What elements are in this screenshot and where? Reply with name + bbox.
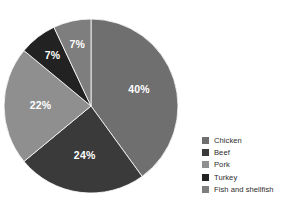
chart-legend: ChickenBeefPorkTurkeyFish and shellfish <box>202 134 282 196</box>
pie-slice-label: 24% <box>74 149 96 161</box>
legend-swatch-icon <box>202 137 209 144</box>
pie-slice-label: 7% <box>45 49 61 61</box>
legend-item[interactable]: Fish and shellfish <box>202 184 282 196</box>
legend-item[interactable]: Turkey <box>202 171 282 183</box>
pie-chart-svg: 40%24%22%7%7% <box>4 11 178 201</box>
legend-swatch-icon <box>202 161 209 168</box>
legend-swatch-icon <box>202 174 209 181</box>
pie-slice-label: 22% <box>30 99 52 111</box>
legend-item[interactable]: Chicken <box>202 134 282 146</box>
legend-item-label: Beef <box>214 148 230 157</box>
legend-item[interactable]: Beef <box>202 146 282 158</box>
legend-item-label: Fish and shellfish <box>214 185 274 194</box>
legend-item[interactable]: Pork <box>202 159 282 171</box>
legend-item-label: Chicken <box>214 136 242 145</box>
pie-slice-label: 7% <box>70 38 86 50</box>
pie-slice-label: 40% <box>128 83 150 95</box>
legend-swatch-icon <box>202 149 209 156</box>
legend-item-label: Turkey <box>214 173 237 182</box>
chart-page: 40%24%22%7%7% ChickenBeefPorkTurkeyFish … <box>0 0 282 207</box>
legend-item-label: Pork <box>214 160 230 169</box>
legend-swatch-icon <box>202 186 209 193</box>
pie-chart: 40%24%22%7%7% <box>4 11 178 201</box>
